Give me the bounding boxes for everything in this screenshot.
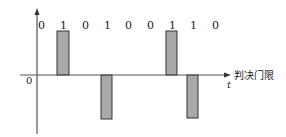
pulse-diagram: 010100110 0 t 判决门限 (0, 0, 286, 137)
pulse-bar (57, 31, 69, 75)
bit-label: 1 (190, 19, 197, 32)
pulse-bar (187, 75, 198, 118)
bit-label: 1 (104, 19, 111, 32)
y-axis-arrow-icon (35, 8, 40, 15)
bit-label: 0 (212, 19, 219, 32)
bit-label: 1 (169, 19, 176, 32)
time-axis-label: t (227, 79, 232, 90)
bit-label: 1 (60, 19, 67, 32)
bit-label: 0 (82, 19, 89, 32)
bit-label: 0 (38, 19, 45, 32)
bit-label: 0 (147, 19, 154, 32)
bit-label: 0 (125, 19, 132, 32)
threshold-label: 判决门限 (234, 69, 274, 81)
pulse-bar (101, 75, 112, 119)
x-axis-arrow-icon (224, 73, 231, 78)
origin-label: 0 (26, 75, 32, 86)
pulse-bar (166, 31, 177, 75)
bit-labels: 010100110 (38, 19, 219, 32)
